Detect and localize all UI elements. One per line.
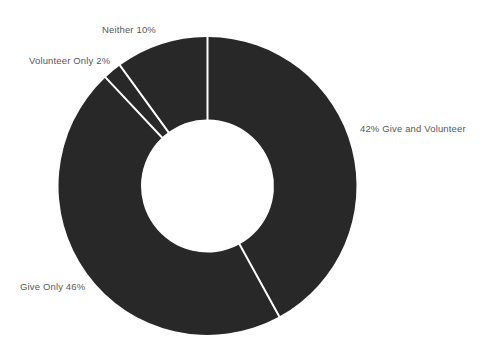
- slice-label-volunteer-only: Volunteer Only 2%: [29, 55, 110, 67]
- slice-label-give-only: Give Only 46%: [20, 281, 85, 293]
- donut-chart: Neither 10% Volunteer Only 2% 42% Give a…: [0, 0, 482, 355]
- slice-label-neither: Neither 10%: [102, 24, 156, 36]
- donut-chart-svg: [0, 0, 482, 355]
- slice-label-give-and-volunteer: 42% Give and Volunteer: [360, 123, 466, 135]
